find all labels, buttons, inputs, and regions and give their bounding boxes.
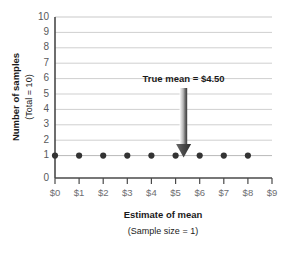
y-tick-label-3: 3 xyxy=(43,118,49,129)
x-tick-label-3: $3 xyxy=(122,187,133,198)
y-tick-label-2: 2 xyxy=(43,134,49,145)
data-point xyxy=(52,153,58,159)
x-axis-title: Estimate of mean xyxy=(124,209,203,220)
x-tick-label-4: $4 xyxy=(146,187,157,198)
x-tick-label-2: $2 xyxy=(98,187,109,198)
x-tick-label-6: $6 xyxy=(194,187,205,198)
y-tick-label-6: 6 xyxy=(43,72,49,83)
data-point xyxy=(197,153,203,159)
data-point xyxy=(173,153,179,159)
true-mean-label: True mean = $4.50 xyxy=(143,73,225,84)
arrow-shaft xyxy=(180,88,188,146)
y-tick-label-10: 10 xyxy=(38,11,50,22)
x-tick-label-7: $7 xyxy=(219,187,230,198)
y-tick-label-4: 4 xyxy=(43,103,49,114)
x-tick-label-8: $8 xyxy=(243,187,254,198)
y-tick-label-5: 5 xyxy=(43,88,49,99)
data-point xyxy=(245,153,251,159)
x-axis-subtitle: (Sample size = 1) xyxy=(128,226,198,236)
data-point xyxy=(100,153,106,159)
y-axis-title: Number of samples xyxy=(10,53,21,141)
chart-figure: 0 1 2 3 4 5 6 7 8 9 10 $0 xyxy=(0,0,290,253)
x-tick-label-5: $5 xyxy=(170,187,181,198)
y-tick-label-8: 8 xyxy=(43,41,49,52)
dot-plot-svg: 0 1 2 3 4 5 6 7 8 9 10 $0 xyxy=(0,0,290,253)
data-point xyxy=(76,153,82,159)
x-tick-label-0: $0 xyxy=(50,187,61,198)
y-axis-subtitle: (Total = 10) xyxy=(24,74,34,119)
y-tick-label-1: 1 xyxy=(43,149,49,160)
x-tick-label-1: $1 xyxy=(74,187,85,198)
data-point xyxy=(148,153,154,159)
y-tick-label-0: 0 xyxy=(43,172,49,183)
y-tick-label-9: 9 xyxy=(43,26,49,37)
data-point xyxy=(124,153,130,159)
data-point xyxy=(221,153,227,159)
y-tick-label-7: 7 xyxy=(43,57,49,68)
x-tick-label-9: $9 xyxy=(267,187,278,198)
